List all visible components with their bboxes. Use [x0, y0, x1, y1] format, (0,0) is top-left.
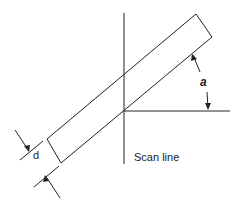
scan-diagram: [0, 0, 242, 221]
width-label: d: [33, 149, 39, 161]
d-extension-top: [20, 141, 43, 160]
a-arrowhead-bottom: [205, 103, 211, 110]
a-arrowhead-top: [191, 54, 197, 61]
scan-line-label: Scan line: [134, 151, 179, 163]
d-extension-bottom: [34, 166, 59, 187]
tilted-bar: [47, 14, 212, 163]
angle-label: a: [200, 75, 207, 89]
d-arrowhead-top: [24, 145, 30, 152]
